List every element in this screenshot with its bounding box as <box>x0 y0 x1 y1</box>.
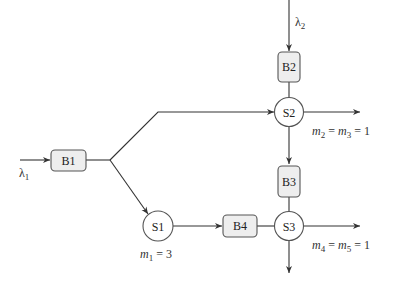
station-s1: S1 <box>143 211 173 241</box>
buffer-b2: B2 <box>278 52 300 82</box>
lambda2-label: λ2 <box>295 15 305 31</box>
buffer-b2-label: B2 <box>282 60 296 74</box>
buffer-b3: B3 <box>278 166 300 197</box>
station-s3: S3 <box>275 212 304 241</box>
buffer-b4: B4 <box>223 215 257 237</box>
buffer-b4-label: B4 <box>233 219 247 233</box>
edge-branch-to-s2 <box>110 112 274 160</box>
s2-servers-label: m2 = m3 = 1 <box>312 124 370 140</box>
station-s2-label: S2 <box>283 106 296 120</box>
queueing-network-diagram: B1 B2 B3 B4 S1 S2 S3 λ1 λ2 m2 = m3 = 1 m… <box>0 0 396 286</box>
buffer-b1-label: B1 <box>61 154 75 168</box>
s3-servers-label: m4 = m5 = 1 <box>312 238 370 254</box>
station-s3-label: S3 <box>283 220 296 234</box>
buffer-b3-label: B3 <box>282 175 296 189</box>
lambda1-label: λ1 <box>19 166 29 182</box>
edge-branch-to-s1 <box>110 160 148 214</box>
station-s1-label: S1 <box>152 220 165 234</box>
station-s2: S2 <box>275 98 304 127</box>
buffer-b1: B1 <box>51 150 86 171</box>
s1-servers-label: m1 = 3 <box>140 247 172 263</box>
